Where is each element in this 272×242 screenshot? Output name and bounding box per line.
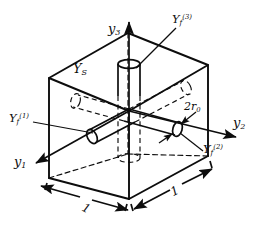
- leader-fiber1: [33, 122, 93, 133]
- unit-cell-drawing: [0, 0, 272, 242]
- figure-canvas: y3 y2 y1 YS Yf(3) Yf(1) Yf(2) 2r0 1 1: [0, 0, 272, 242]
- diameter-label-2r0: 2r0: [184, 101, 201, 114]
- fiber-label-y-f-3: Yf(3): [172, 14, 192, 26]
- fiber-label-y-f-1: Yf(1): [9, 113, 29, 125]
- leader-fiber3: [136, 28, 176, 68]
- axis-label-y3: y3: [108, 22, 120, 37]
- fiber-y2-cylinder: [69, 92, 184, 137]
- fiber-label-y-f-2: Yf(2): [203, 144, 223, 156]
- axis-label-y2: y2: [233, 116, 245, 131]
- matrix-label-ys: YS: [73, 62, 87, 77]
- leader-fiber2: [180, 133, 203, 151]
- axis-label-y1: y1: [14, 155, 26, 170]
- diameter-dimension-arrows: [159, 112, 196, 143]
